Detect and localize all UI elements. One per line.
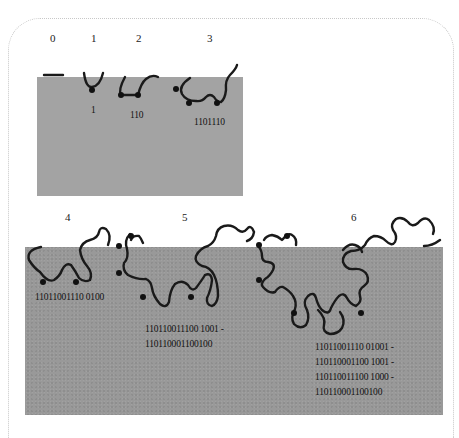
monomer-dot [173,86,179,92]
stage-1-curve [84,73,103,87]
monomer-dot [118,92,124,98]
monomer-dot [89,87,95,93]
monomer-dot [40,279,46,285]
monomer-dot [256,242,262,248]
monomer-dot [73,279,79,285]
monomer-dot [116,270,122,276]
stage-6-arm-2 [264,235,282,240]
monomer-dot [186,100,192,106]
stage-2-curve [120,76,158,95]
monomer-dot [358,310,364,316]
monomer-dot [140,294,146,300]
stage-6-loop [318,310,344,334]
stage-4-curve [29,228,110,281]
monomer-dot [135,92,141,98]
monomer-dot [116,243,122,249]
monomer-dot [291,310,297,316]
stage-3-curve [181,65,237,102]
stage-5-curve [124,226,255,307]
monomer-dot [214,100,220,106]
monomer-dot [188,294,194,300]
stage-6-tail [424,240,440,246]
stage-6-curve [258,218,434,327]
monomer-dot [256,277,262,283]
monomer-dot [284,233,290,239]
monomer-dot [128,233,134,239]
